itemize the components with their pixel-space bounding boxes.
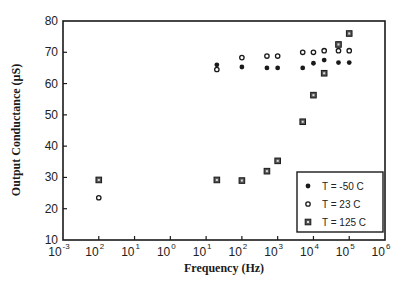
y-tick-label: 70	[45, 45, 59, 59]
data-point-filled-circle	[347, 60, 352, 65]
data-point-open-circle	[336, 49, 340, 53]
data-point-square-inner	[266, 170, 268, 172]
x-tick-label: 102	[228, 242, 247, 259]
data-point-square-inner	[337, 43, 339, 45]
data-point-open-circle	[347, 49, 351, 53]
y-tick-label: 20	[45, 202, 59, 216]
data-point-open-circle	[301, 50, 305, 54]
data-point-open-circle	[275, 54, 279, 58]
x-tick-label: 101	[121, 242, 140, 259]
legend-label: T = -50 C	[322, 181, 364, 192]
y-tick-label: 30	[45, 170, 59, 184]
y-tick-label: 80	[45, 14, 59, 28]
y-tick-label: 50	[45, 108, 59, 122]
x-tick-label: 104	[300, 242, 319, 259]
data-point-filled-circle	[322, 58, 327, 63]
legend-marker-filled-circle	[306, 184, 311, 189]
data-point-square-inner	[323, 72, 325, 74]
legend-label: T = 125 C	[322, 217, 366, 228]
data-point-filled-circle	[300, 66, 305, 71]
data-point-square-inner	[98, 179, 100, 181]
x-tick-label: 106	[372, 242, 391, 259]
x-tick-label: 103	[264, 242, 283, 259]
data-point-square-inner	[348, 33, 350, 35]
data-point-filled-circle	[311, 61, 316, 66]
data-point-open-circle	[322, 49, 326, 53]
data-point-open-circle	[97, 196, 101, 200]
data-point-open-circle	[215, 67, 219, 71]
data-point-open-circle	[265, 54, 269, 58]
data-point-square-inner	[216, 179, 218, 181]
data-point-square-inner	[277, 160, 279, 162]
legend-label: T = 23 C	[322, 199, 360, 210]
data-point-filled-circle	[275, 66, 280, 71]
x-tick-label: 102	[85, 242, 104, 259]
y-tick-label: 40	[45, 139, 59, 153]
data-point-square-inner	[302, 121, 304, 123]
data-point-square-inner	[241, 180, 243, 182]
data-point-filled-circle	[214, 62, 219, 67]
x-tick-label: 10-3	[48, 242, 70, 259]
x-tick-label: 105	[336, 242, 355, 259]
output-conductance-chart: 1020304050607080 10-31021011001011021031…	[0, 0, 414, 290]
y-axis-title: Output Conductance (µS)	[9, 64, 23, 196]
legend-marker-open-circle	[306, 202, 310, 206]
data-point-open-circle	[240, 55, 244, 59]
x-tick-label: 100	[157, 242, 176, 259]
data-point-open-circle	[311, 50, 315, 54]
data-point-filled-circle	[336, 60, 341, 65]
legend-marker-square-inner	[307, 221, 309, 223]
data-point-square-inner	[312, 94, 314, 96]
x-tick-label: 101	[193, 242, 212, 259]
data-point-filled-circle	[239, 65, 244, 70]
y-tick-label: 60	[45, 77, 59, 91]
data-point-filled-circle	[265, 66, 270, 71]
legend: T = -50 CT = 23 CT = 125 C	[297, 172, 383, 232]
x-axis-title: Frequency (Hz)	[184, 261, 264, 275]
